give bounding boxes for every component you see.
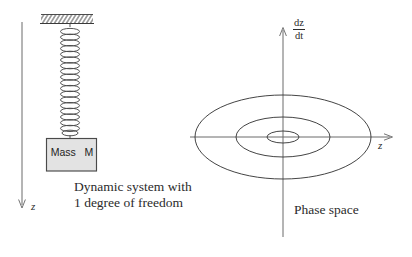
- caption-line-1: Dynamic system with: [74, 179, 192, 194]
- figure-canvas: [0, 0, 412, 257]
- z-axis-left-label: z: [31, 200, 35, 212]
- mass-block-label: Mass M: [47, 146, 97, 158]
- dzdt-denominator: dt: [293, 30, 305, 41]
- z-axis-left: [19, 22, 26, 208]
- z-axis-right-label: z: [378, 139, 382, 151]
- dzdt-axis-label: dz dt: [293, 17, 305, 41]
- ceiling-support-icon: [40, 15, 94, 24]
- spring-icon: [61, 24, 80, 139]
- dynamic-system-caption: Dynamic system with1 degree of freedom: [74, 179, 192, 210]
- dzdt-numerator: dz: [293, 17, 305, 28]
- phase-space-diagram: [190, 28, 393, 238]
- z-axis-right: [190, 134, 393, 140]
- dzdt-axis: [280, 28, 287, 238]
- caption-line-2: 1 degree of freedom: [74, 195, 183, 210]
- phase-space-caption: Phase space: [294, 202, 359, 218]
